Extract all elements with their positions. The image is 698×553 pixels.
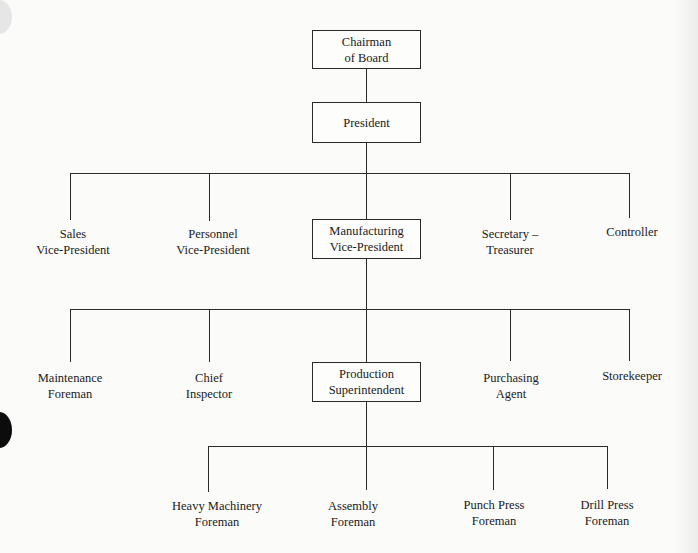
node-personnel-vp: Personnel Vice-President (176, 226, 250, 258)
connector-drill-press-foreman (607, 446, 608, 489)
connector-sales-vp (70, 173, 71, 220)
node-drill-press-foreman: Drill Press Foreman (580, 497, 633, 529)
node-label-line: Sales (36, 226, 110, 242)
page-edge-shadow (674, 0, 698, 553)
connector-chairman-president (366, 69, 367, 102)
node-label-line: Chairman (342, 34, 391, 50)
node-label-line: Foreman (580, 513, 633, 529)
node-label-line: Treasurer (482, 242, 539, 258)
node-label-line: Foreman (172, 514, 262, 530)
connector-heavy-machinery-foreman (208, 446, 209, 492)
node-label-line: Secretary – (482, 226, 539, 242)
node-label-line: Production (329, 366, 405, 382)
node-assembly-foreman: Assembly Foreman (328, 498, 378, 530)
binding-hole-artifact (0, 412, 12, 448)
node-label-line: Vice-President (36, 242, 110, 258)
node-secretary-treasurer: Secretary – Treasurer (482, 226, 539, 258)
node-label-line: Inspector (186, 386, 233, 402)
node-label-line: Foreman (464, 513, 525, 529)
node-label-line: Storekeeper (602, 368, 662, 384)
connector-storekeeper (629, 309, 630, 361)
node-label-line: of Board (342, 50, 391, 66)
connector-level3-bus (70, 309, 630, 310)
node-president: President (312, 102, 421, 143)
connector-mfg-vp-down (366, 259, 367, 362)
node-label-line: Foreman (38, 386, 103, 402)
node-label-line: Agent (483, 386, 539, 402)
node-punch-press-foreman: Punch Press Foreman (464, 497, 525, 529)
node-label-line: Personnel (176, 226, 250, 242)
node-label-line: Controller (606, 224, 657, 240)
connector-secretary-treasurer (510, 173, 511, 220)
node-sales-vp: Sales Vice-President (36, 226, 110, 258)
connector-controller (629, 173, 630, 218)
node-label-line: Chief (186, 370, 233, 386)
node-label-line: Superintendent (329, 382, 405, 398)
node-controller: Controller (606, 224, 657, 240)
node-heavy-machinery-foreman: Heavy Machinery Foreman (172, 498, 262, 530)
node-label-line: Assembly (328, 498, 378, 514)
node-label-line: Vice-President (329, 239, 403, 255)
node-purchasing-agent: Purchasing Agent (483, 370, 539, 402)
node-chief-inspector: Chief Inspector (186, 370, 233, 402)
node-label-line: Foreman (328, 514, 378, 530)
node-storekeeper: Storekeeper (602, 368, 662, 384)
connector-level2-bus (70, 173, 630, 174)
connector-personnel-vp (209, 173, 210, 221)
node-manufacturing-vp: Manufacturing Vice-President (312, 219, 421, 259)
node-chairman-of-board: Chairman of Board (312, 30, 421, 69)
scan-artifact (0, 0, 12, 34)
node-label-line: Maintenance (38, 370, 103, 386)
node-label-line: Drill Press (580, 497, 633, 513)
node-label-line: Heavy Machinery (172, 498, 262, 514)
connector-punch-press-foreman (493, 446, 494, 490)
node-production-superintendent: Production Superintendent (312, 362, 421, 402)
node-label-line: Purchasing (483, 370, 539, 386)
node-label-line: Punch Press (464, 497, 525, 513)
node-label-line: President (343, 115, 390, 131)
connector-level4-bus (208, 446, 608, 447)
node-maintenance-foreman: Maintenance Foreman (38, 370, 103, 402)
connector-president-down (366, 143, 367, 219)
connector-chief-inspector (209, 309, 210, 362)
connector-purchasing-agent (510, 309, 511, 361)
connector-maintenance-foreman (70, 309, 71, 362)
node-label-line: Manufacturing (329, 223, 403, 239)
node-label-line: Vice-President (176, 242, 250, 258)
